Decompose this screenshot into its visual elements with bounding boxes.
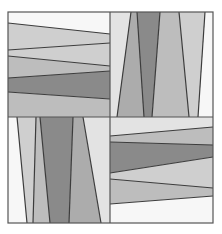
quadrant-bottom-right xyxy=(110,117,213,223)
quadrant-top-right xyxy=(110,12,213,117)
quadrant-top-left xyxy=(8,12,110,117)
quadrant-bottom-left xyxy=(8,117,110,223)
geometric-artwork xyxy=(0,0,222,234)
